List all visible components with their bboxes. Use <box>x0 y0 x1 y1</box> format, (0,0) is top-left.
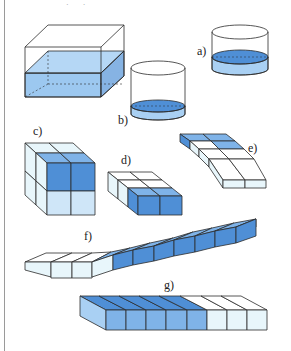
label-e: e) <box>248 141 257 155</box>
block-d-figure <box>108 172 182 215</box>
strip-f-figure <box>25 219 256 278</box>
label-c: c) <box>33 124 42 138</box>
rect-container-figure <box>25 25 124 97</box>
cylinder-a-figure <box>212 25 268 75</box>
label-d: d) <box>121 153 131 167</box>
strip-g-figure <box>80 296 267 330</box>
cylinder-b-figure <box>131 61 185 120</box>
label-b: b) <box>118 113 128 127</box>
label-a: a) <box>197 44 206 58</box>
cube-c-figure <box>25 143 95 215</box>
label-f: f) <box>84 229 92 243</box>
label-g: g) <box>164 278 174 292</box>
volume-figures: a) b) <box>0 0 291 351</box>
